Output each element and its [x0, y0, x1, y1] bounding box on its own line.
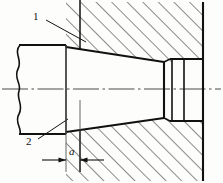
leader-label-1: 1: [33, 11, 39, 22]
dimension-label-a: a: [69, 146, 75, 157]
cross-section-svg: [0, 0, 223, 183]
leader-label-2: 2: [26, 136, 32, 147]
dimension-arrow-left-icon: [59, 157, 67, 162]
leader-line-2: [38, 119, 68, 139]
technical-drawing-canvas: 1 2 a: [0, 0, 223, 183]
